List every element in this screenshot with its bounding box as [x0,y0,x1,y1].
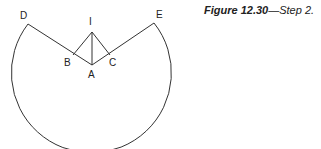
segment-ic [92,32,110,55]
label-a: A [88,69,95,80]
figure-number: Figure 12.30 [204,4,268,16]
label-c: C [109,57,116,68]
geometry-diagram: D E I B C A [0,0,200,149]
label-b: B [64,57,71,68]
arc-d-to-e [11,23,171,149]
caption-text: Step 2. [279,4,314,16]
segment-ib [73,32,92,55]
label-d: D [20,10,27,21]
segment-da [28,24,92,65]
label-e: E [156,9,163,20]
figure-caption: Figure 12.30—Step 2. [204,4,314,16]
label-i: I [89,16,92,27]
caption-separator: — [268,4,279,16]
